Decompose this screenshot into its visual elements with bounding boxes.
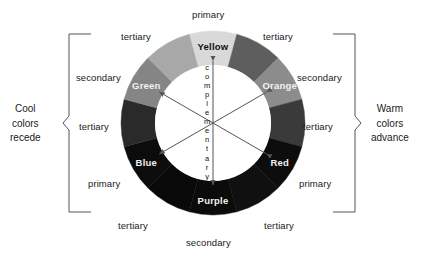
note-line: advance bbox=[371, 131, 409, 146]
segment-label-blue: Blue bbox=[136, 156, 157, 167]
complementary-letter: e bbox=[202, 109, 212, 117]
color-wheel-diagram: YellowOrangeRedPurpleBlueGreen complemen… bbox=[0, 0, 423, 253]
complementary-letter: m bbox=[202, 82, 212, 90]
complementary-letter: r bbox=[202, 164, 212, 172]
outer-label-primary-top: primary bbox=[192, 9, 224, 20]
complementary-letter: p bbox=[202, 91, 212, 99]
complementary-letter: a bbox=[202, 155, 212, 163]
complementary-letter: l bbox=[202, 100, 212, 108]
cool-colors-note: Coolcolorsrecede bbox=[10, 102, 41, 146]
segment-label-yellow: Yellow bbox=[198, 41, 229, 52]
note-line: colors bbox=[10, 117, 41, 132]
outer-label-tertiary-bot-right: tertiary bbox=[264, 220, 294, 231]
outer-label-secondary-bottom: secondary bbox=[186, 237, 231, 248]
complementary-letter: c bbox=[202, 64, 212, 72]
segment-label-red: Red bbox=[270, 156, 289, 167]
outer-label-tertiary-bot-left: tertiary bbox=[118, 220, 148, 231]
complementary-letter: o bbox=[202, 73, 212, 81]
outer-label-tertiary-top-right: tertiary bbox=[263, 31, 293, 42]
note-line: recede bbox=[10, 131, 41, 146]
complementary-letter: e bbox=[202, 127, 212, 135]
note-line: Cool bbox=[10, 102, 41, 117]
complementary-letter: m bbox=[202, 118, 212, 126]
outer-label-secondary-right: secondary bbox=[297, 72, 342, 83]
outer-label-primary-right: primary bbox=[299, 178, 331, 189]
outer-label-primary-left: primary bbox=[88, 178, 120, 189]
warm-colors-note: Warmcolorsadvance bbox=[371, 102, 409, 146]
complementary-letter: y bbox=[202, 173, 212, 181]
complementary-letter: t bbox=[202, 145, 212, 153]
note-line: Warm bbox=[371, 102, 409, 117]
complementary-letter: n bbox=[202, 136, 212, 144]
segment-label-purple: Purple bbox=[198, 195, 229, 206]
outer-label-secondary-left: secondary bbox=[76, 72, 121, 83]
bracket-right-warm bbox=[333, 34, 361, 212]
outer-label-tertiary-top-left: tertiary bbox=[121, 31, 151, 42]
segment-label-green: Green bbox=[132, 79, 160, 90]
segment-label-orange: Orange bbox=[262, 79, 296, 90]
note-line: colors bbox=[371, 117, 409, 132]
outer-label-tertiary-mid-left: tertiary bbox=[79, 121, 109, 132]
outer-label-tertiary-mid-right: tertiary bbox=[303, 121, 333, 132]
